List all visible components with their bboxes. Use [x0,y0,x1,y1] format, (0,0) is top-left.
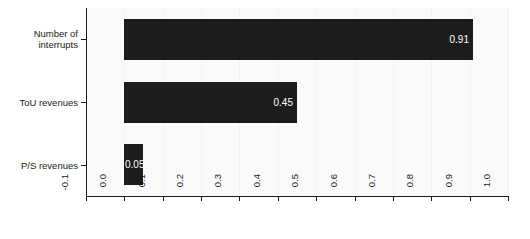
x-axis-tick [239,196,240,201]
x-axis-tick [431,196,432,201]
gridline-x-11 [508,8,509,196]
bar-value-label: 0.45 [274,98,293,108]
x-axis-tick-label: 0.3 [213,174,223,204]
y-axis-tick-label: Number of interrupts [0,28,78,50]
x-axis-tick-label: 0.5 [290,174,300,204]
x-axis-tick-label: 0.2 [175,174,185,204]
y-axis-tick-label: ToU revenues [0,97,78,108]
x-axis-tick-label: 0.9 [444,174,454,204]
x-axis-tick [86,196,87,201]
bar-chart: 0.910.450.05 Number of interruptsToU rev… [0,0,530,239]
x-axis-tick [355,196,356,201]
x-axis-tick [393,196,394,201]
y-axis-tick-label: P/S revenues [0,160,78,171]
x-axis-tick [278,196,279,201]
x-axis-tick [124,196,125,201]
y-axis-tick [81,165,86,166]
x-axis-tick-label: 0.7 [367,174,377,204]
x-axis-tick-label: 0.6 [329,174,339,204]
x-axis-tick-label: -0.1 [60,174,70,204]
x-axis-tick-label: 0.1 [137,174,147,204]
x-axis-tick [316,196,317,201]
bar-value-label: 0.91 [450,35,469,45]
x-axis-tick-label: 1.0 [482,174,492,204]
x-axis-tick-label: 0.0 [98,174,108,204]
bar-value-label: 0.05 [125,160,144,170]
y-axis-tick [81,102,86,103]
x-axis-tick [470,196,471,201]
bar: 0.91 [124,19,473,60]
x-axis-tick-label: 0.8 [405,174,415,204]
x-axis-tick [163,196,164,201]
y-axis-tick [81,39,86,40]
bar: 0.45 [124,82,297,123]
x-axis-tick-label: 0.4 [252,174,262,204]
y-axis-line [86,8,87,196]
x-axis-tick [201,196,202,201]
x-axis-tick [508,196,509,201]
